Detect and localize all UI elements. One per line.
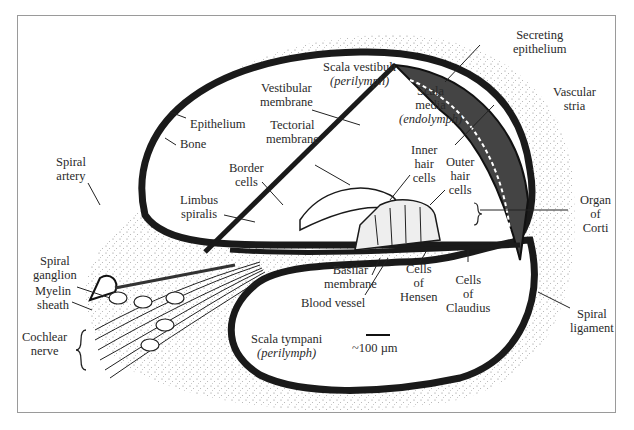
label-text: Tectorial xyxy=(266,118,319,132)
label-text: Myelin xyxy=(35,284,71,298)
label-tectorial-membrane: Tectorial membrane xyxy=(266,118,319,146)
label-spiral-artery: Spiral artery xyxy=(56,155,86,183)
label-text: of xyxy=(446,287,490,301)
label-text: spiralis xyxy=(180,207,218,221)
label-text: ganglion xyxy=(33,268,77,282)
label-text: of xyxy=(400,276,438,290)
label-text: (endolymph) xyxy=(399,112,462,126)
label-text: cells xyxy=(446,183,474,197)
label-text: Basilar xyxy=(324,263,377,277)
label-text: Spiral xyxy=(56,155,86,169)
label-limbus-spiralis: Limbus spiralis xyxy=(180,193,218,221)
label-scala-vestibuli-fluid: (perilymph) xyxy=(323,74,396,88)
label-text: membrane xyxy=(266,132,319,146)
label-blood-vessel: Blood vessel xyxy=(301,296,365,310)
label-myelin-sheath: Myelin sheath xyxy=(35,284,71,312)
label-vascular-stria: Vascular stria xyxy=(553,85,596,113)
cochlear-nerve-brace xyxy=(76,330,86,370)
scale-bar-label: ~100 µm xyxy=(352,341,398,355)
label-text: Claudius xyxy=(446,301,490,315)
label-text: epithelium xyxy=(513,42,566,56)
label-inner-hair-cells: Inner hair cells xyxy=(411,143,437,185)
label-scala-vestibuli-text: Scala vestibuli xyxy=(323,60,396,74)
label-text: Limbus xyxy=(180,193,218,207)
label-text: Scala tympani xyxy=(251,332,322,346)
label-spiral-ligament: Spiral ligament xyxy=(570,307,614,335)
label-cochlear-nerve: Cochlear nerve xyxy=(22,330,67,358)
label-text: sheath xyxy=(35,298,71,312)
label-text: nerve xyxy=(22,344,67,358)
label-text: Vestibular xyxy=(260,81,313,95)
label-outer-hair-cells: Outer hair cells xyxy=(446,155,474,197)
label-text: ligament xyxy=(570,321,614,335)
label-text: Cells xyxy=(400,262,438,276)
label-basilar-membrane: Basilar membrane xyxy=(324,263,377,291)
label-text: Cells xyxy=(446,273,490,287)
label-spiral-ganglion: Spiral ganglion xyxy=(33,254,77,282)
label-text: Spiral xyxy=(33,254,77,268)
label-text: of xyxy=(580,207,611,221)
label-text: cells xyxy=(411,171,437,185)
label-text: hair xyxy=(411,157,437,171)
label-scala-vestibuli: Scala vestibuli (perilymph) xyxy=(323,60,396,88)
label-text: Scala xyxy=(399,84,462,98)
label-text: artery xyxy=(56,169,86,183)
label-scala-media: Scala media (endolymph) xyxy=(399,84,462,126)
label-epithelium: Epithelium xyxy=(190,117,246,131)
label-text: Hensen xyxy=(400,290,438,304)
label-border-cells: Border cells xyxy=(229,161,264,189)
label-secreting-epithelium: Secreting epithelium xyxy=(513,28,566,56)
label-text: media xyxy=(399,98,462,112)
label-text: (perilymph) xyxy=(251,346,322,360)
label-text: Organ xyxy=(580,193,611,207)
cochlea-diagram xyxy=(0,0,634,430)
label-text: Corti xyxy=(580,221,611,235)
label-bone: Bone xyxy=(180,137,206,151)
label-text: Spiral xyxy=(570,307,614,321)
label-text: Secreting xyxy=(513,28,566,42)
label-text: hair xyxy=(446,169,474,183)
label-text: membrane xyxy=(324,277,377,291)
label-text: Vascular xyxy=(553,85,596,99)
label-cells-of-hensen: Cells of Hensen xyxy=(400,262,438,304)
label-vestibular-membrane: Vestibular membrane xyxy=(260,81,313,109)
label-text: cells xyxy=(229,175,264,189)
label-cells-of-claudius: Cells of Claudius xyxy=(446,273,490,315)
label-text: Border xyxy=(229,161,264,175)
label-scala-tympani: Scala tympani (perilymph) xyxy=(251,332,322,360)
label-text: stria xyxy=(553,99,596,113)
label-text: Inner xyxy=(411,143,437,157)
label-text: Cochlear xyxy=(22,330,67,344)
label-text: membrane xyxy=(260,95,313,109)
label-text: Outer xyxy=(446,155,474,169)
label-organ-of-corti: Organ of Corti xyxy=(580,193,611,235)
